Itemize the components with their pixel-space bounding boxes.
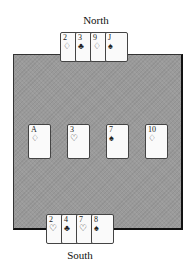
south-label: South (67, 249, 93, 261)
table-card-1[interactable]: A ♢ (28, 124, 51, 159)
north-card-4[interactable]: J ♠ (105, 32, 128, 62)
diamond-suit-icon: ♢ (148, 134, 156, 143)
north-label: North (83, 14, 109, 26)
south-card-4[interactable]: 8 ♠ (91, 214, 114, 244)
table-card-2[interactable]: 3 ♡ (67, 124, 90, 159)
spade-suit-icon: ♠ (94, 224, 99, 233)
table-card-4[interactable]: 10 ♢ (145, 124, 168, 159)
club-suit-icon: ♣ (78, 42, 84, 51)
spade-suit-icon: ♠ (109, 134, 114, 143)
diamond-suit-icon: ♢ (63, 42, 71, 51)
diamond-suit-icon: ♢ (93, 42, 101, 51)
heart-suit-icon: ♡ (70, 134, 78, 143)
heart-suit-icon: ♡ (49, 224, 57, 233)
table-card-3[interactable]: 7 ♠ (106, 124, 129, 159)
diamond-suit-icon: ♢ (31, 134, 39, 143)
spade-suit-icon: ♠ (108, 42, 113, 51)
club-suit-icon: ♣ (64, 224, 70, 233)
heart-suit-icon: ♡ (79, 224, 87, 233)
